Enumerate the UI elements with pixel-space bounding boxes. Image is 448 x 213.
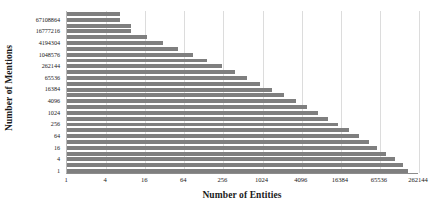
y-axis-tick-labels: 1416642561024409616384655362621441048576… xyxy=(18,11,63,174)
y-axis-tick-label: 262144 xyxy=(42,63,60,69)
bar xyxy=(67,140,369,144)
y-axis-tick-label: 4 xyxy=(57,156,60,162)
x-axis-tick-label: 64 xyxy=(180,177,187,184)
y-axis-tick-label: 64 xyxy=(54,133,60,139)
bar xyxy=(67,157,395,161)
y-axis-tick-label: 16777216 xyxy=(36,28,60,34)
x-axis-tick-label: 4096 xyxy=(294,177,307,184)
bar xyxy=(67,117,328,121)
bar xyxy=(67,123,338,127)
x-axis-title: Number of Entities xyxy=(66,190,418,200)
x-axis-tick-label: 4 xyxy=(103,177,106,184)
bar xyxy=(67,24,131,28)
y-axis-tick-label: 1024 xyxy=(48,110,60,116)
chart-container: Number of Mentions 141664256102440961638… xyxy=(0,0,448,213)
bar xyxy=(67,169,408,173)
plot-area xyxy=(66,11,418,174)
y-axis-tick-label: 4194304 xyxy=(39,40,60,46)
bar xyxy=(67,163,403,167)
bar xyxy=(67,47,178,51)
x-axis-tick-label: 16384 xyxy=(332,177,348,184)
bar xyxy=(67,41,163,45)
bar xyxy=(67,111,318,115)
bar xyxy=(67,99,296,103)
bar xyxy=(67,59,207,63)
bar xyxy=(67,29,131,33)
y-axis-tick-label: 1048576 xyxy=(39,52,60,58)
bar xyxy=(67,53,193,57)
x-axis-tick-label: 256 xyxy=(218,177,228,184)
bar xyxy=(67,12,120,16)
bar xyxy=(67,152,386,156)
bar xyxy=(67,88,272,92)
y-axis-title: Number of Mentions xyxy=(0,0,18,175)
x-axis-tick-labels: 141664256102440961638465536262144 xyxy=(0,177,448,189)
bar xyxy=(67,76,247,80)
x-axis-tick-label: 16 xyxy=(141,177,148,184)
bar xyxy=(67,128,349,132)
bar xyxy=(67,82,260,86)
y-axis-tick-label: 67108864 xyxy=(36,17,60,23)
y-axis-tick-label: 16 xyxy=(54,145,60,151)
bar xyxy=(67,64,222,68)
x-axis-tick-label: 262144 xyxy=(408,177,427,184)
bar xyxy=(67,134,359,138)
y-axis-tick-label: 256 xyxy=(51,121,60,127)
bar xyxy=(67,70,235,74)
y-axis-tick-label: 65536 xyxy=(45,75,60,81)
bar-series xyxy=(67,11,418,173)
bar xyxy=(67,18,120,22)
bar xyxy=(67,93,284,97)
bar xyxy=(67,146,377,150)
gridline xyxy=(419,11,420,173)
y-axis-tick-label: 4096 xyxy=(48,98,60,104)
y-axis-title-text: Number of Mentions xyxy=(4,44,14,130)
x-axis-tick-label: 1024 xyxy=(255,177,268,184)
y-axis-tick-label: 1 xyxy=(57,168,60,174)
x-axis-tick-label: 65536 xyxy=(371,177,387,184)
bar xyxy=(67,105,307,109)
bar xyxy=(67,35,147,39)
y-axis-tick-label: 16384 xyxy=(45,86,60,92)
x-axis-tick-label: 1 xyxy=(64,177,67,184)
